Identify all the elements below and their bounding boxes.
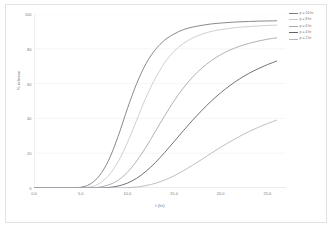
legend-line-swatch [289, 26, 298, 27]
series-line-4 [34, 120, 277, 188]
legend-label: p = 8 hr [300, 18, 312, 22]
y-tick-label: 100 [25, 12, 32, 17]
x-tick-label: 15.0 [170, 191, 178, 196]
legend-line-swatch [289, 19, 298, 20]
legend-item: p = 2 hr [289, 37, 329, 42]
x-tick-label: 5.0 [78, 191, 84, 196]
y-axis-title: % release [16, 54, 21, 108]
x-tick-label: 0.0 [31, 191, 37, 196]
y-tick-label: 80 [27, 46, 31, 51]
plot-area: 0204060801000.05.010.015.020.025.0 [34, 14, 286, 188]
legend-label: p = 2 hr [300, 37, 312, 41]
y-tick-label: 40 [27, 116, 31, 121]
legend-label: p = 6 hr [300, 25, 312, 29]
chart-figure: % release 0204060801000.05.010.015.020.0… [0, 0, 334, 231]
series-line-3 [34, 61, 277, 188]
legend-item: p = 8 hr [289, 17, 329, 22]
legend-item: p = 4 hr [289, 30, 329, 35]
series-line-2 [34, 38, 277, 188]
legend-line-swatch [289, 32, 298, 33]
legend-line-swatch [289, 39, 298, 40]
x-tick-label: 10.0 [123, 191, 131, 196]
x-tick-label: 20.0 [217, 191, 225, 196]
legend-line-swatch [289, 13, 298, 14]
x-tick-label: 25.0 [263, 191, 271, 196]
chart-legend: p = 10 hrp = 8 hrp = 6 hrp = 4 hrp = 2 h… [289, 11, 329, 42]
plot-canvas [34, 14, 286, 188]
y-tick-label: 60 [27, 81, 31, 86]
legend-item: p = 10 hr [289, 11, 329, 16]
legend-label: p = 4 hr [300, 31, 312, 35]
legend-item: p = 6 hr [289, 24, 329, 29]
y-tick-label: 20 [27, 151, 31, 156]
x-axis-title: t (hr) [34, 203, 286, 208]
legend-label: p = 10 hr [300, 12, 314, 16]
